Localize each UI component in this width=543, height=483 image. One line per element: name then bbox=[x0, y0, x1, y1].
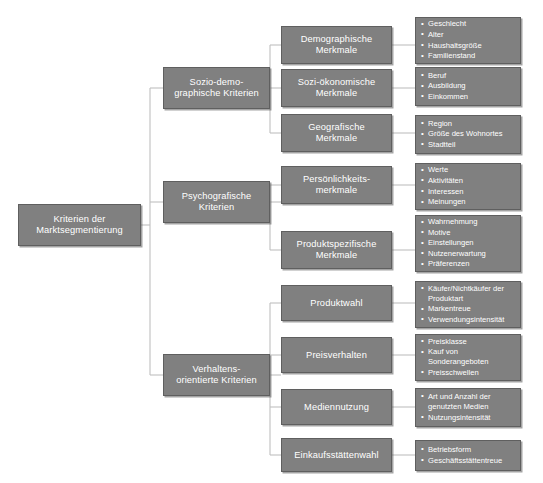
child-node-produktspezifische-merkmale[interactable]: Produktspezifische Merkmale bbox=[281, 231, 392, 269]
detail-list-item-label: Wahrnehmung bbox=[428, 217, 478, 226]
bullet-icon: • bbox=[421, 283, 424, 294]
detail-list-item-label: Interessen bbox=[428, 187, 463, 196]
detail-list-item: •Markentreue bbox=[421, 304, 517, 314]
detail-list-item-label: Käufer/Nichtkäufer der Produktart bbox=[428, 284, 504, 303]
detail-list: •Wahrnehmung•Motive•Einstellungen•Nutzen… bbox=[421, 217, 517, 270]
bullet-icon: • bbox=[421, 248, 424, 259]
bullet-icon: • bbox=[421, 70, 424, 81]
child-node-mediennutzung[interactable]: Mediennutzung bbox=[281, 389, 392, 425]
detail-list-item: •Wahrnehmung bbox=[421, 217, 517, 227]
detail-list: •Region•Größe des Wohnortes•Stadtteil bbox=[421, 119, 517, 151]
child-node-sozi-oekonomische-merkmale[interactable]: Sozi-ökonomische Merkmale bbox=[281, 69, 392, 107]
bullet-icon: • bbox=[421, 29, 424, 40]
bullet-icon: • bbox=[421, 314, 424, 325]
detail-list-item: •Preisklasse bbox=[421, 337, 517, 347]
detail-list-item: •Meinungen bbox=[421, 197, 517, 207]
bullet-icon: • bbox=[421, 129, 424, 140]
detail-list-item-label: Motive bbox=[428, 228, 450, 237]
detail-list-item-label: Einkommen bbox=[428, 92, 468, 101]
branch-node-sozio-demographische-kriterien[interactable]: Sozio-demo- graphische Kriterien bbox=[163, 67, 270, 109]
detail-list-item-label: Art und Anzahl der genutzten Medien bbox=[428, 392, 490, 411]
detail-box-einkaufsstaettenwahl[interactable]: •Betriebsform•Geschäftsstättentreue bbox=[415, 440, 521, 471]
detail-list-item-label: Ausbildung bbox=[428, 81, 466, 90]
detail-list-item: •Art und Anzahl der genutzten Medien bbox=[421, 392, 517, 412]
detail-box-geografische-merkmale[interactable]: •Region•Größe des Wohnortes•Stadtteil bbox=[415, 115, 521, 154]
detail-box-produktwahl[interactable]: •Käufer/Nichtkäufer der Produktart•Marke… bbox=[415, 281, 521, 328]
child-node-label: Sozi-ökonomische Merkmale bbox=[294, 77, 380, 99]
detail-list-item-label: Haushaltsgröße bbox=[428, 41, 482, 50]
detail-list-item-label: Meinungen bbox=[428, 197, 466, 206]
branch-node-verhaltens-orientierte-kriterien[interactable]: Verhaltens- orientierte Kriterien bbox=[163, 354, 270, 396]
bullet-icon: • bbox=[421, 81, 424, 92]
detail-list-item-label: Nutzenerwartung bbox=[428, 249, 486, 258]
detail-list-item: •Interessen bbox=[421, 187, 517, 197]
bullet-icon: • bbox=[421, 412, 424, 423]
root-node-label: Kriterien der Marktsegmentierung bbox=[32, 214, 127, 236]
detail-box-preisverhalten[interactable]: •Preisklasse•Kauf von Sonderangeboten•Pr… bbox=[415, 334, 521, 381]
bullet-icon: • bbox=[421, 227, 424, 238]
detail-list-item-label: Alter bbox=[428, 30, 444, 39]
detail-list-item: •Nutzenerwartung bbox=[421, 249, 517, 259]
detail-list-item-label: Werte bbox=[428, 165, 448, 174]
bullet-icon: • bbox=[421, 118, 424, 129]
child-node-label: Produktspezifische Merkmale bbox=[293, 239, 381, 261]
bullet-icon: • bbox=[421, 347, 424, 358]
bullet-icon: • bbox=[421, 175, 424, 186]
bullet-icon: • bbox=[421, 444, 424, 455]
detail-box-produktspezifische-merkmale[interactable]: •Wahrnehmung•Motive•Einstellungen•Nutzen… bbox=[415, 215, 521, 272]
detail-box-persoenlichkeitsmerkmale[interactable]: •Werte•Aktivitäten•Interessen•Meinungen bbox=[415, 163, 521, 210]
detail-list-item-label: Geschäftsstättentreue bbox=[428, 456, 502, 465]
detail-list-item: •Motive bbox=[421, 228, 517, 238]
detail-list-item: •Käufer/Nichtkäufer der Produktart bbox=[421, 284, 517, 304]
branch-node-psychografische-kriterien[interactable]: Psychografische Kriterien bbox=[163, 181, 270, 223]
detail-box-demographische-merkmale[interactable]: •Geschlecht•Alter•Haushaltsgröße•Familie… bbox=[415, 17, 521, 64]
detail-list-item: •Alter bbox=[421, 30, 517, 40]
detail-list-item: •Einkommen bbox=[421, 92, 517, 102]
detail-list-item: •Beruf bbox=[421, 71, 517, 81]
detail-list-item-label: Markentreue bbox=[428, 304, 471, 313]
detail-list-item-label: Region bbox=[428, 119, 452, 128]
detail-list-item: •Größe des Wohnortes bbox=[421, 129, 517, 139]
detail-list-item-label: Größe des Wohnortes bbox=[428, 129, 503, 138]
bullet-icon: • bbox=[421, 259, 424, 270]
child-node-label: Mediennutzung bbox=[300, 402, 373, 413]
child-node-label: Produktwahl bbox=[306, 298, 366, 309]
detail-list-item: •Region bbox=[421, 119, 517, 129]
root-node[interactable]: Kriterien der Marktsegmentierung bbox=[18, 204, 141, 246]
child-node-einkaufsstaettenwahl[interactable]: Einkaufsstättenwahl bbox=[281, 438, 392, 472]
bullet-icon: • bbox=[421, 455, 424, 466]
detail-box-sozi-oekonomische-merkmale[interactable]: •Beruf•Ausbildung•Einkommen bbox=[415, 67, 521, 106]
detail-list-item: •Familienstand bbox=[421, 51, 517, 61]
detail-list-item-label: Stadtteil bbox=[428, 140, 455, 149]
detail-list-item-label: Geschlecht bbox=[428, 19, 466, 28]
branch-node-label: Verhaltens- orientierte Kriterien bbox=[172, 364, 261, 386]
detail-list-item-label: Preisklasse bbox=[428, 337, 467, 346]
bullet-icon: • bbox=[421, 51, 424, 62]
child-node-preisverhalten[interactable]: Preisverhalten bbox=[281, 337, 392, 373]
bullet-icon: • bbox=[421, 391, 424, 402]
detail-list: •Käufer/Nichtkäufer der Produktart•Marke… bbox=[421, 284, 517, 326]
detail-list-item-label: Nutzungsintensität bbox=[428, 413, 490, 422]
detail-list-item: •Ausbildung bbox=[421, 81, 517, 91]
bullet-icon: • bbox=[421, 304, 424, 315]
child-node-persoenlichkeitsmerkmale[interactable]: Persönlichkeits- merkmale bbox=[281, 166, 392, 204]
child-node-geografische-merkmale[interactable]: Geografische Merkmale bbox=[281, 114, 392, 152]
detail-list-item-label: Präferenzen bbox=[428, 259, 469, 268]
detail-list-item-label: Betriebsform bbox=[428, 445, 471, 454]
child-node-label: Persönlichkeits- merkmale bbox=[299, 174, 374, 196]
child-node-label: Demographische Merkmale bbox=[297, 34, 377, 56]
detail-list-item-label: Familienstand bbox=[428, 51, 475, 60]
detail-box-mediennutzung[interactable]: •Art und Anzahl der genutzten Medien•Nut… bbox=[415, 388, 521, 427]
child-node-demographische-merkmale[interactable]: Demographische Merkmale bbox=[281, 26, 392, 64]
detail-list: •Betriebsform•Geschäftsstättentreue bbox=[421, 445, 517, 466]
detail-list-item: •Aktivitäten bbox=[421, 176, 517, 186]
detail-list: •Preisklasse•Kauf von Sonderangeboten•Pr… bbox=[421, 337, 517, 379]
detail-list-item-label: Beruf bbox=[428, 71, 446, 80]
child-node-produktwahl[interactable]: Produktwahl bbox=[281, 285, 392, 321]
detail-list-item: •Nutzungsintensität bbox=[421, 413, 517, 423]
bullet-icon: • bbox=[421, 217, 424, 228]
detail-list-item: •Stadtteil bbox=[421, 140, 517, 150]
marktsegmentierung-diagram: Kriterien der Marktsegmentierung Sozio-d… bbox=[0, 0, 543, 483]
detail-list-item-label: Preisschwellen bbox=[428, 368, 479, 377]
detail-list: •Werte•Aktivitäten•Interessen•Meinungen bbox=[421, 165, 517, 207]
